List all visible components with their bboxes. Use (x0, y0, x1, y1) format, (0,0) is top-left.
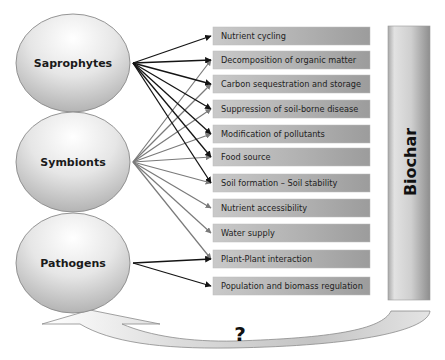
arrow-saprophytes-to-suppression (133, 63, 211, 109)
function-box-soil-formation: Soil formation – Soil stability (213, 174, 370, 192)
arrow-symbionts-to-nutrient-accessibility (133, 162, 211, 208)
arrow-saprophytes-to-food-source (133, 63, 211, 157)
function-box-modification-pollutants: Modification of pollutants (213, 125, 370, 143)
arrow-symbionts-to-suppression (133, 109, 211, 162)
function-label: Plant-Plant interaction (221, 254, 312, 264)
organism-label: Saprophytes (34, 57, 113, 70)
function-box-food-source: Food source (213, 148, 370, 166)
function-box-nutrient-cycling: Nutrient cycling (213, 27, 370, 45)
function-box-water-supply: Water supply (213, 224, 370, 242)
function-label: Nutrient accessibility (221, 203, 307, 213)
organisms-group: SaprophytesSymbiontsPathogens (16, 14, 130, 313)
biochar-bar: Biochar (388, 26, 430, 300)
organism-pathogens: Pathogens (16, 213, 130, 313)
arrow-symbionts-to-plant-plant (133, 162, 211, 259)
biochar-label: Biochar (401, 128, 420, 196)
function-label: Population and biomass regulation (221, 281, 363, 291)
function-label: Food source (221, 152, 270, 162)
function-label: Nutrient cycling (221, 31, 286, 41)
function-box-carbon-sequestration: Carbon sequestration and storage (213, 75, 370, 93)
organism-saprophytes: Saprophytes (16, 14, 130, 112)
question-mark-label: ? (234, 322, 246, 346)
arrow-pathogens-to-plant-plant (133, 259, 211, 263)
function-box-nutrient-accessibility: Nutrient accessibility (213, 199, 370, 217)
function-label: Modification of pollutants (221, 129, 325, 139)
function-label: Carbon sequestration and storage (221, 79, 361, 89)
arrows-layer (133, 36, 211, 286)
function-label: Soil formation – Soil stability (221, 178, 338, 188)
function-box-plant-plant: Plant-Plant interaction (213, 250, 370, 268)
function-box-suppression: Suppression of soil-borne disease (213, 100, 370, 118)
function-box-decomposition: Decomposition of organic matter (213, 51, 370, 69)
functions-group: Nutrient cyclingDecomposition of organic… (213, 27, 370, 295)
arrow-pathogens-to-population-regulation (133, 263, 211, 286)
organism-label: Pathogens (40, 257, 106, 270)
function-label: Suppression of soil-borne disease (221, 104, 358, 114)
soil-biota-biochar-diagram: ? SaprophytesSymbiontsPathogens Nutrient… (0, 0, 445, 360)
feedback-arrow: ? (42, 310, 430, 348)
organism-label: Symbionts (40, 156, 106, 169)
arrow-saprophytes-to-decomposition (133, 60, 211, 63)
organism-symbionts: Symbionts (16, 112, 130, 212)
function-label: Decomposition of organic matter (221, 55, 357, 65)
function-label: Water supply (221, 228, 275, 238)
arrow-saprophytes-to-nutrient-cycling (133, 36, 211, 63)
function-box-population-regulation: Population and biomass regulation (213, 277, 370, 295)
